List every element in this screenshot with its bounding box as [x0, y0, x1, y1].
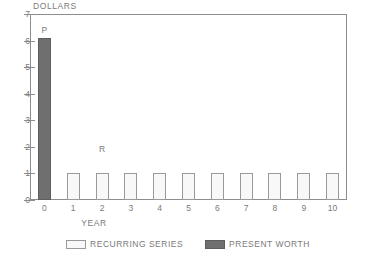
annotation-label-p: P	[34, 26, 54, 35]
bar-present-worth-year-0	[38, 38, 51, 200]
bar-recurring-series-year-3	[124, 173, 137, 200]
x-axis-tick-label: 4	[147, 204, 173, 213]
y-axis-tick-label: 4	[8, 90, 30, 99]
y-axis-tick-label: 7	[8, 10, 30, 19]
bar-recurring-series-year-6	[211, 173, 224, 200]
x-axis-tick-label: 7	[233, 204, 259, 213]
y-axis-tick-label: 3	[8, 116, 30, 125]
y-axis-tick-label: 6	[8, 37, 30, 46]
x-axis-tick-label: 2	[89, 204, 115, 213]
x-axis-tick-label: 1	[60, 204, 86, 213]
legend-item-present: PRESENT WORTH	[205, 239, 310, 249]
x-axis-tick-label: 6	[204, 204, 230, 213]
bar-recurring-series-year-9	[297, 173, 310, 200]
x-axis-title-text: YEAR	[81, 218, 107, 228]
y-axis-tick-label: 1	[8, 169, 30, 178]
y-axis-tick-label: 0	[8, 196, 30, 205]
bar-recurring-series-year-5	[182, 173, 195, 200]
x-axis-tick-label: 9	[291, 204, 317, 213]
y-axis-tick-label: 5	[8, 63, 30, 72]
x-axis-title: YEAR	[0, 218, 376, 228]
bar-recurring-series-year-8	[268, 173, 281, 200]
y-axis-title: DOLLARS	[33, 1, 77, 11]
x-axis-tick-label: 8	[262, 204, 288, 213]
bar-recurring-series-year-10	[326, 173, 339, 200]
legend-swatch-recurring-icon	[66, 240, 86, 249]
legend-label: PRESENT WORTH	[229, 239, 310, 249]
x-axis-tick-label: 10	[320, 204, 346, 213]
x-axis-tick-label: 0	[31, 204, 57, 213]
bar-recurring-series-year-4	[153, 173, 166, 200]
plot-area-frame	[30, 14, 347, 200]
bar-recurring-series-year-1	[67, 173, 80, 200]
x-axis-tick-label: 5	[176, 204, 202, 213]
cash-flow-bar-chart: DOLLARS 01234567 012345678910 PR YEAR RE…	[0, 0, 376, 267]
x-axis-tick-label: 3	[118, 204, 144, 213]
bar-recurring-series-year-7	[240, 173, 253, 200]
bar-recurring-series-year-2	[96, 173, 109, 200]
legend-label: RECURRING SERIES	[90, 239, 183, 249]
annotation-label-r: R	[92, 145, 112, 154]
y-axis-tick-label: 2	[8, 143, 30, 152]
legend-item-recurring: RECURRING SERIES	[66, 239, 183, 249]
chart-legend: RECURRING SERIESPRESENT WORTH	[0, 239, 376, 249]
legend-swatch-present-icon	[205, 240, 225, 249]
